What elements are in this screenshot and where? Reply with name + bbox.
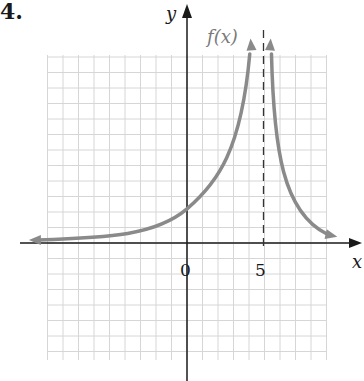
tick-label-5: 5 [255,260,266,280]
function-label: f(x) [205,26,238,47]
function-graph: y x 0 5 f(x) [0,0,364,381]
tick-label-0: 0 [180,260,191,280]
x-axis-label: x [352,251,362,272]
curves [29,38,337,245]
y-axis-label: y [165,3,177,24]
